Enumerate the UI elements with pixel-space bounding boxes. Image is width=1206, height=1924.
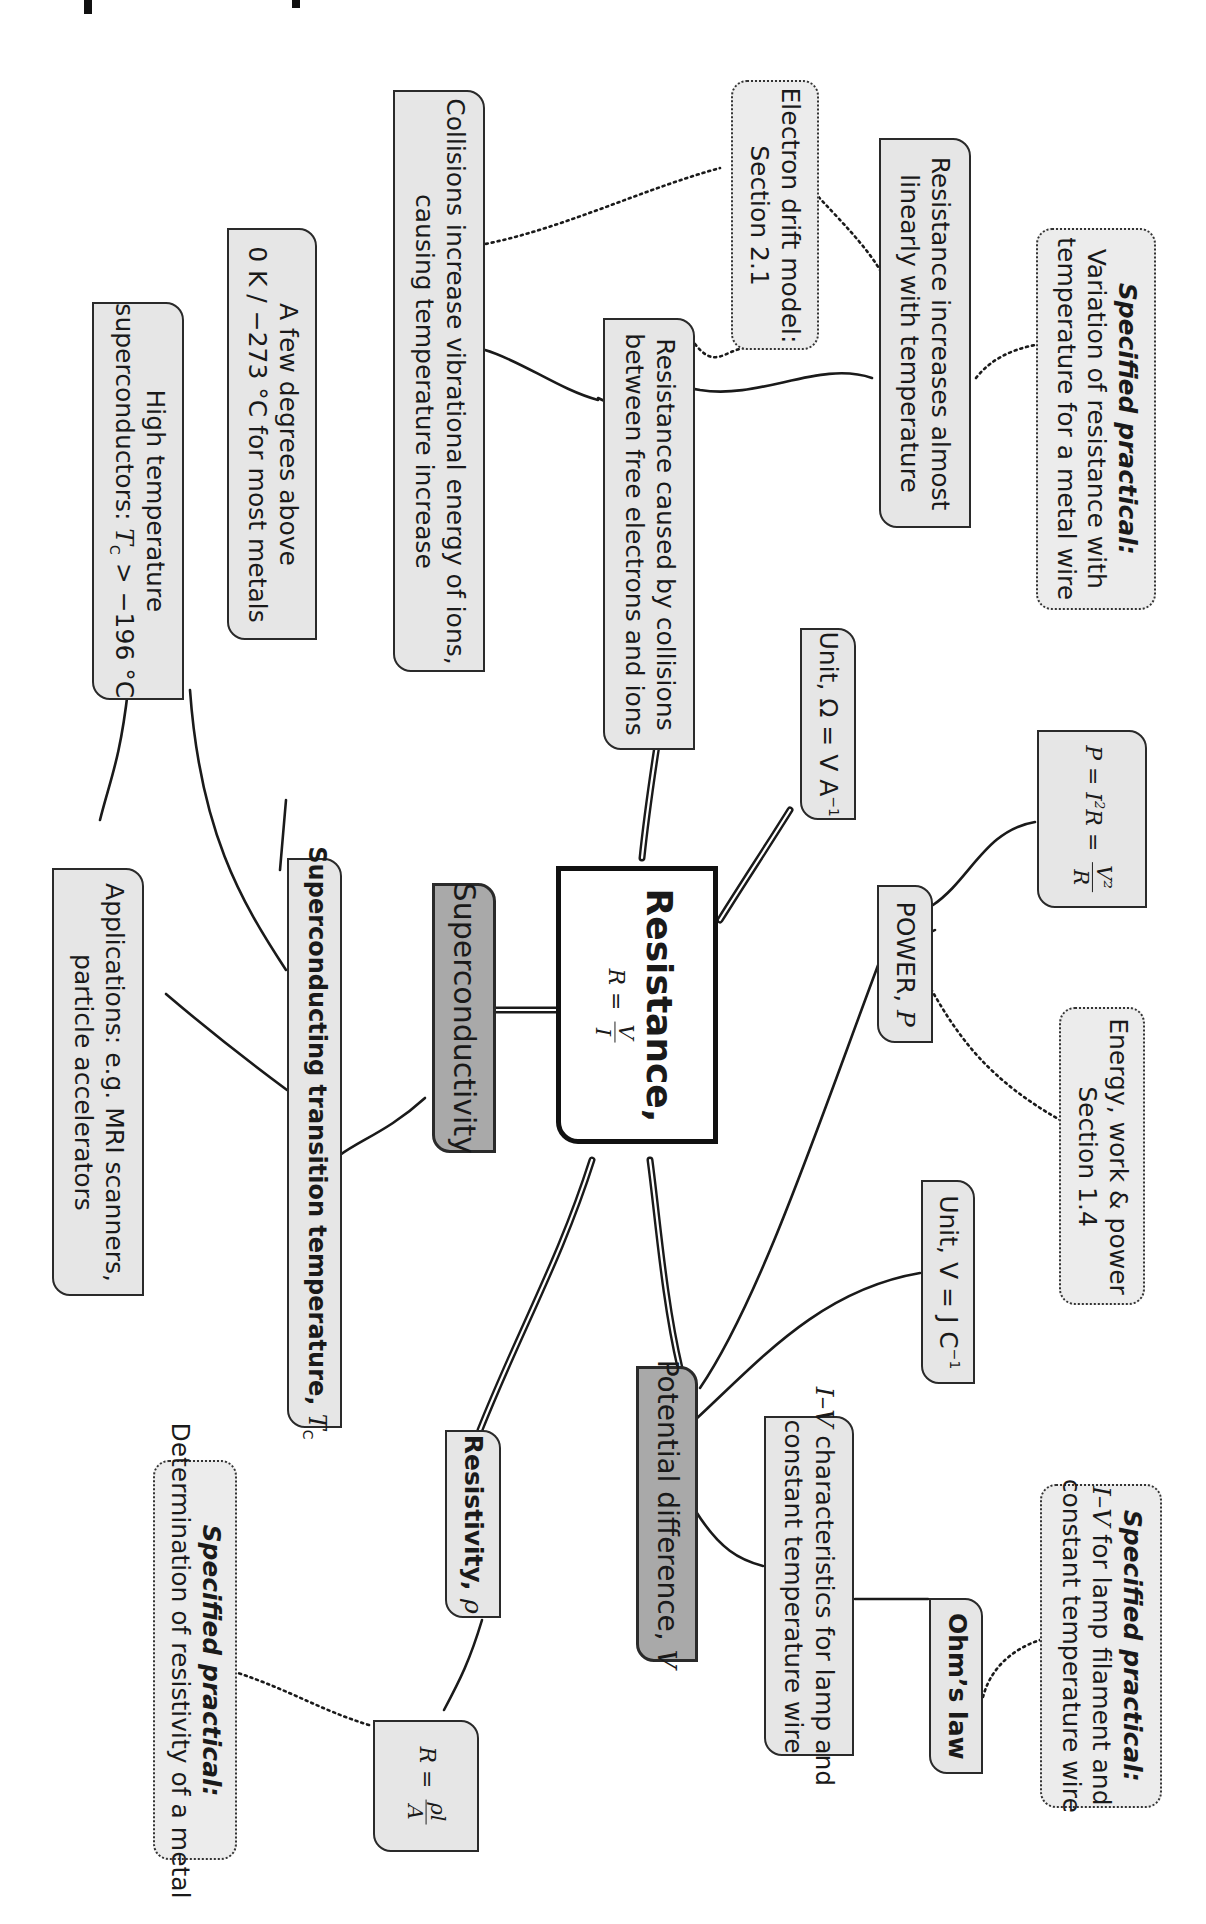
double-link-center-resistivity — [480, 1160, 592, 1430]
node-applications[interactable]: Applications: e.g. MRI scanners, particl… — [52, 868, 144, 1296]
dotted-link-power-energy — [931, 989, 1060, 1120]
center-formula: R = VI — [593, 888, 638, 1122]
center-title: Resistance, — [638, 888, 682, 1122]
node-iv-characteristics[interactable]: I–V characteristics for lamp and constan… — [764, 1416, 854, 1756]
node-unit-volt[interactable]: Unit, V = J C−1 — [921, 1180, 975, 1384]
link-transition-hightemp — [190, 690, 286, 970]
node-few-degrees-above[interactable]: A few degrees above 0 K / −273 °C for mo… — [227, 228, 317, 640]
node-power-formula[interactable]: P = I2R = V²R — [1037, 730, 1147, 908]
node-collisions-vibrational-energy[interactable]: Collisions increase vibrational energy o… — [393, 90, 485, 672]
node-high-temperature[interactable]: High temperature superconductors: TC > −… — [92, 302, 184, 700]
double-link-center-unit-ohm — [720, 810, 790, 920]
double-link-center-pd — [650, 1160, 680, 1368]
node-unit-ohm[interactable]: Unit, Ω = V A−1 — [800, 628, 856, 820]
ref-energy-work-power[interactable]: Energy, work & power Section 1.4 — [1059, 1007, 1145, 1305]
ref-electron-drift-model[interactable]: Electron drift model: Section 2.1 — [731, 80, 819, 350]
center-node-resistance[interactable]: Resistance, R = VI — [556, 866, 718, 1144]
node-resistivity-formula[interactable]: R = ρlA — [373, 1720, 479, 1852]
link-transition-fewdegrees — [280, 800, 286, 870]
node-transition-temperature[interactable]: Superconducting transition temperature, … — [287, 858, 342, 1428]
link-applications-hightemp — [100, 690, 128, 820]
link-power-formula — [933, 822, 1035, 905]
link-transition-applications — [166, 994, 287, 1090]
link-super-transition — [340, 1098, 425, 1155]
dotted-link-drift-linear — [810, 188, 880, 270]
node-resistance-increases-linearly[interactable]: Resistance increases almost linearly wit… — [879, 138, 971, 528]
practical-resistance-temperature[interactable]: Specified practical: Variation of resist… — [1036, 228, 1156, 610]
mind-map-canvas: Resistance, R = VI Superconductivity Sup… — [0, 0, 1206, 1924]
link-pd-iv — [695, 1510, 763, 1566]
dotted-link-linear-practical — [976, 345, 1035, 378]
branch-potential-difference[interactable]: Potential difference, V — [636, 1366, 698, 1662]
dotted-link-resistivity-practical — [235, 1672, 369, 1725]
branch-superconductivity[interactable]: Superconductivity — [432, 883, 496, 1153]
node-resistivity[interactable]: Resistivity, ρ — [445, 1430, 501, 1618]
dotted-link-ohms-practical — [983, 1640, 1040, 1697]
node-resistance-caused-by-collisions[interactable]: Resistance caused by collisions between … — [603, 318, 695, 750]
link-resistivity-formula — [444, 1620, 482, 1710]
link-cause-vibrational — [485, 350, 598, 400]
node-power[interactable]: POWER, P — [877, 885, 933, 1043]
dotted-link-vibrational-drift — [480, 168, 720, 245]
node-ohms-law[interactable]: Ohm’s law — [929, 1598, 983, 1774]
practical-resistivity[interactable]: Specified practical: Determination of re… — [153, 1460, 237, 1860]
practical-iv-characteristics[interactable]: Specified practical: I–V for lamp filame… — [1040, 1484, 1162, 1808]
